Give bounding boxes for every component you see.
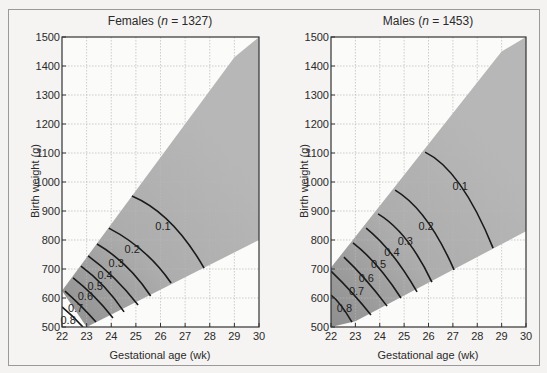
contour-label: 0.8 [337, 302, 352, 314]
contour-label: 0.6 [359, 272, 374, 284]
y-tick-label: 1000 [305, 176, 329, 188]
x-tick-label: 23 [349, 330, 361, 342]
y-tick-label: 600 [311, 292, 329, 304]
y-tick-label: 1400 [305, 60, 329, 72]
y-tick-label: 900 [311, 205, 329, 217]
y-tick-label: 1300 [305, 89, 329, 101]
x-tick-label: 24 [374, 330, 386, 342]
x-tick-label: 29 [496, 330, 508, 342]
x-tick-label: 25 [398, 330, 410, 342]
contour-label: 0.3 [398, 235, 413, 247]
y-tick-label: 1500 [305, 31, 329, 43]
contour-label: 0.4 [384, 246, 399, 258]
males-plot: 0.10.20.30.40.50.60.70.82223242526272829… [0, 0, 547, 373]
y-tick-label: 1100 [305, 147, 329, 159]
contour-label: 0.1 [453, 180, 468, 192]
x-tick-label: 28 [471, 330, 483, 342]
y-tick-label: 800 [311, 234, 329, 246]
x-tick-label: 30 [520, 330, 532, 342]
contour-label: 0.7 [349, 285, 364, 297]
y-tick-label: 1200 [305, 118, 329, 130]
contour-label: 0.2 [418, 220, 433, 232]
contour-label: 0.5 [371, 258, 386, 270]
y-tick-label: 500 [311, 321, 329, 333]
x-tick-label: 27 [447, 330, 459, 342]
x-tick-label: 26 [422, 330, 434, 342]
y-tick-label: 700 [311, 263, 329, 275]
